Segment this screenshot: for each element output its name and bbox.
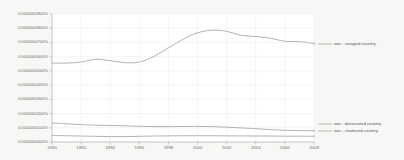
series-endpoint-1 — [313, 130, 315, 132]
legend-label-0: war - ravaged country — [334, 42, 376, 46]
series-endpoint-2 — [313, 135, 315, 137]
series-line-2 — [52, 135, 314, 136]
ngram-chart: 0.0000000000%0.0000000100%0.0000000200%0… — [0, 0, 404, 160]
legend-label-2: war - shattered country — [334, 129, 378, 133]
series-endpoint-0 — [313, 42, 315, 44]
data-series-lines — [52, 30, 315, 137]
grid-lines — [52, 14, 314, 142]
series-line-0 — [52, 30, 314, 63]
x-tick-label-9: 2008 — [309, 146, 319, 150]
y-tick-label-5: 0.0000000500% — [18, 69, 48, 73]
x-tick-label-0: 1990 — [47, 146, 57, 150]
x-tick-label-4: 1998 — [164, 146, 174, 150]
y-tick-label-1: 0.0000000100% — [18, 126, 48, 130]
chart-canvas — [0, 0, 404, 160]
x-tick-label-6: 2002 — [222, 146, 232, 150]
x-tick-label-7: 2004 — [251, 146, 261, 150]
axis-lines — [52, 14, 314, 142]
y-tick-label-2: 0.0000000200% — [18, 112, 48, 116]
x-tick-label-2: 1994 — [105, 146, 115, 150]
legend-connector-lines — [318, 44, 332, 131]
y-tick-label-0: 0.0000000000% — [18, 140, 48, 144]
y-tick-label-9: 0.0000000900% — [18, 12, 48, 16]
y-tick-label-4: 0.0000000400% — [18, 83, 48, 87]
series-line-1 — [52, 123, 314, 131]
y-tick-label-3: 0.0000000300% — [18, 97, 48, 101]
y-tick-label-8: 0.0000000800% — [18, 26, 48, 30]
y-tick-label-7: 0.0000000700% — [18, 40, 48, 44]
x-tick-label-3: 1996 — [135, 146, 145, 150]
x-tick-label-5: 2000 — [193, 146, 203, 150]
x-tick-label-1: 1992 — [76, 146, 86, 150]
x-tick-label-8: 2006 — [280, 146, 290, 150]
legend-label-1: war - devastated country — [334, 122, 381, 126]
y-tick-label-6: 0.0000000600% — [18, 55, 48, 59]
